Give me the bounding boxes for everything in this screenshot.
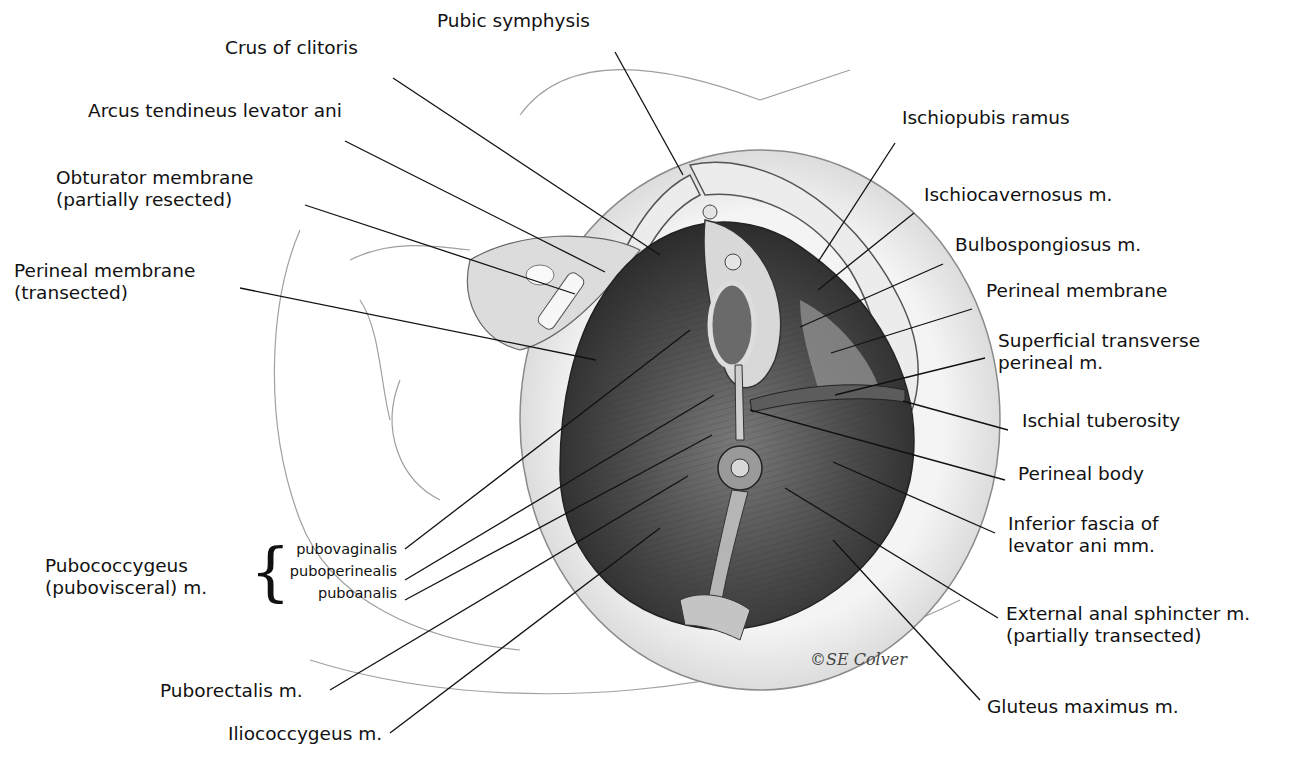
subpart-pubovaginalis: pubovaginalis	[296, 540, 397, 558]
pubic-symphysis-leader-line	[615, 52, 683, 175]
label-superficial-transverse: perineal m.	[998, 352, 1103, 374]
label-bulbospongiosus: Bulbospongiosus m.	[955, 234, 1141, 256]
label-puborectalis: Puborectalis m.	[160, 680, 303, 702]
label-perineal-membrane-transected: Perineal membrane	[14, 260, 195, 282]
label-inferior-fascia: Inferior fascia of	[1008, 513, 1158, 535]
pubococcygeus-title-line-2: (pubovisceral) m.	[45, 577, 207, 599]
label-perineal-membrane-transected: (transected)	[14, 282, 128, 304]
label-crus-of-clitoris: Crus of clitoris	[225, 37, 358, 59]
label-external-anal-sphincter: (partially transected)	[1006, 625, 1201, 647]
arcus-tendineus-leader-line	[345, 141, 605, 272]
label-ischiocavernosus: Ischiocavernosus m.	[924, 184, 1112, 206]
label-arcus-tendineus: Arcus tendineus levator ani	[88, 100, 342, 122]
label-obturator-membrane: (partially resected)	[56, 189, 232, 211]
label-external-anal-sphincter: External anal sphincter m.	[1006, 603, 1250, 625]
artist-signature: ©SE Colver	[810, 650, 907, 669]
crus-of-clitoris-leader-line	[393, 78, 660, 255]
label-inferior-fascia: levator ani mm.	[1008, 535, 1155, 557]
label-obturator-membrane: Obturator membrane	[56, 167, 254, 189]
label-perineal-membrane: Perineal membrane	[986, 280, 1167, 302]
label-gluteus-maximus: Gluteus maximus m.	[987, 696, 1179, 718]
subpart-puboanalis: puboanalis	[318, 584, 397, 602]
label-superficial-transverse: Superficial transverse	[998, 330, 1200, 352]
label-perineal-body: Perineal body	[1018, 463, 1144, 485]
curly-brace-icon: {	[250, 540, 291, 604]
label-ischial-tuberosity: Ischial tuberosity	[1022, 410, 1180, 432]
label-iliococcygeus: Iliococcygeus m.	[228, 723, 382, 745]
subpart-puboperinealis: puboperinealis	[290, 562, 397, 580]
label-pubic-symphysis: Pubic symphysis	[437, 10, 590, 32]
pubococcygeus-title-line-1: Pubococcygeus	[45, 555, 188, 577]
label-ischiopubis-ramus: Ischiopubis ramus	[902, 107, 1070, 129]
